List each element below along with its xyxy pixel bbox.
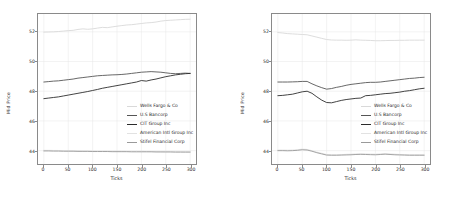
stock-mid-price-figure: Mid Price Ticks 050100150200250300 44464… [0,0,467,205]
legend-label: American Intl Group Inc [140,131,193,136]
legend-swatch-icon [127,115,137,116]
legend-label: U.S Bancorp [140,113,168,118]
legend-item: U.S Bancorp [361,111,427,120]
legend-item: CIT Group Inc [361,120,427,129]
x-tick-label: 200 [371,167,380,172]
y-axis-label-left: Mid Price [6,63,11,143]
legend-item: Stifel Financial Corp [127,138,193,147]
legend-item: American Intl Group Inc [127,129,193,138]
chart-panel-right: Mid Price Ticks 050100150200250300 44464… [234,0,467,205]
legend-label: Wells Fargo & Co [140,104,178,109]
legend-swatch-icon [127,142,137,143]
legend-swatch-icon [361,115,371,116]
x-tick-label: 50 [299,167,305,172]
legend-label: American Intl Group Inc [374,131,427,136]
legend-label: Wells Fargo & Co [374,104,412,109]
x-tick-label: 100 [88,167,97,172]
x-axis-label-left: Ticks [0,176,233,181]
x-tick-label: 250 [162,167,171,172]
x-tick-label: 300 [187,167,196,172]
legend-swatch-icon [361,142,371,143]
legend-swatch-icon [361,124,371,125]
legend-right: Wells Fargo & CoU.S BancorpCIT Group Inc… [361,102,427,147]
x-tick-label: 50 [65,167,71,172]
legend-swatch-icon [127,133,137,134]
legend-item: Wells Fargo & Co [361,102,427,111]
legend-swatch-icon [361,106,371,107]
legend-item: Stifel Financial Corp [361,138,427,147]
y-axis-label-right: Mid Price [240,63,245,143]
x-tick-label: 0 [275,167,278,172]
x-tick-label: 100 [322,167,331,172]
x-tick-label: 150 [347,167,356,172]
legend-item: U.S Bancorp [127,111,193,120]
x-tick-label: 250 [396,167,405,172]
legend-item: CIT Group Inc [127,120,193,129]
legend-left: Wells Fargo & CoU.S BancorpCIT Group Inc… [127,102,193,147]
legend-label: Stifel Financial Corp [374,140,419,145]
legend-item: Wells Fargo & Co [127,102,193,111]
x-tick-label: 0 [41,167,44,172]
legend-swatch-icon [127,106,137,107]
x-axis-label-right: Ticks [234,176,467,181]
legend-swatch-icon [127,124,137,125]
x-tick-label: 150 [113,167,122,172]
legend-label: U.S Bancorp [374,113,402,118]
chart-panel-left: Mid Price Ticks 050100150200250300 44464… [0,0,233,205]
legend-label: CIT Group Inc [140,122,170,127]
legend-swatch-icon [361,133,371,134]
x-tick-label: 200 [137,167,146,172]
x-tick-label: 300 [421,167,430,172]
legend-label: Stifel Financial Corp [140,140,185,145]
legend-label: CIT Group Inc [374,122,404,127]
legend-item: American Intl Group Inc [361,129,427,138]
